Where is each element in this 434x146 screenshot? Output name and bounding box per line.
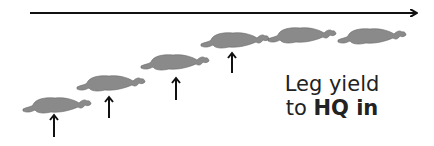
- push-arrow-icon: [105, 97, 113, 118]
- horse-4: [201, 33, 269, 48]
- horse-1: [23, 98, 91, 113]
- push-arrow-icon: [172, 78, 180, 100]
- push-arrow-icon: [228, 53, 236, 73]
- caption-prefix: to: [286, 96, 314, 120]
- push-arrow-icon: [50, 115, 58, 137]
- caption-line-1: Leg yield: [262, 72, 402, 96]
- horse-6: [338, 29, 406, 44]
- horse-3: [141, 55, 209, 70]
- diagram-caption: Leg yield to HQ in: [262, 72, 402, 120]
- caption-line-2: to HQ in: [262, 96, 402, 120]
- horse-5: [268, 28, 336, 43]
- caption-bold: HQ in: [313, 96, 378, 120]
- horse-2: [77, 76, 145, 91]
